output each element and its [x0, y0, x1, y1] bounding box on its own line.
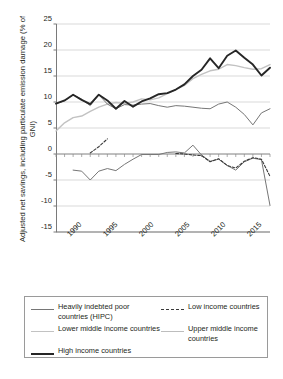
y-tick-label: 20 — [30, 40, 52, 49]
series-line — [56, 51, 270, 109]
legend-item-upper-middle: Upper middle income countries — [161, 324, 261, 343]
legend-row-1: Heavily indebted poor countries (HIPC) L… — [31, 302, 261, 321]
legend-label-hipc: Heavily indebted poor countries (HIPC) — [58, 302, 161, 321]
legend-label-low-income: Low income countries — [188, 302, 259, 312]
y-tick-label: 0 — [30, 144, 52, 153]
y-tick-label: 10 — [30, 92, 52, 101]
chart-svg — [56, 19, 270, 234]
plot-area — [56, 14, 270, 228]
legend-row-2: Lower middle income countries Upper midd… — [31, 324, 261, 343]
y-tick-label: -15 — [30, 222, 52, 231]
y-tick-label: 15 — [30, 66, 52, 75]
y-tick-label: -10 — [30, 196, 52, 205]
legend-item-low-income: Low income countries — [161, 302, 261, 321]
legend-swatch-low-income — [161, 305, 184, 314]
legend-row-3: High income countries — [31, 346, 261, 358]
legend-label-high-income: High income countries — [58, 346, 131, 356]
y-tick-label: -5 — [30, 170, 52, 179]
y-tick-label: 5 — [30, 118, 52, 127]
legend-swatch-upper-middle — [161, 327, 184, 336]
chart-page: Adjusted net savings, including particul… — [0, 0, 283, 379]
series-line — [90, 139, 270, 176]
x-axis-tick-labels: 199019952000200520102015 — [40, 232, 283, 266]
legend-label-upper-middle: Upper middle income countries — [188, 324, 261, 343]
legend-label-lower-middle: Lower middle income countries — [58, 324, 160, 334]
chart-canvas — [56, 19, 270, 232]
y-axis-tick-labels: 2520151050-5-10-15 — [26, 14, 52, 234]
series-line — [56, 65, 270, 132]
legend-swatch-hipc — [31, 305, 54, 314]
legend-item-lower-middle: Lower middle income countries — [31, 324, 161, 343]
legend-swatch-high-income — [31, 349, 54, 358]
legend-item-high-income: High income countries — [31, 346, 161, 358]
legend-item-hipc: Heavily indebted poor countries (HIPC) — [31, 302, 161, 321]
series-line — [56, 95, 270, 125]
y-tick-label: 25 — [30, 14, 52, 23]
chart-legend: Heavily indebted poor countries (HIPC) L… — [24, 296, 268, 358]
legend-swatch-lower-middle — [31, 327, 54, 336]
